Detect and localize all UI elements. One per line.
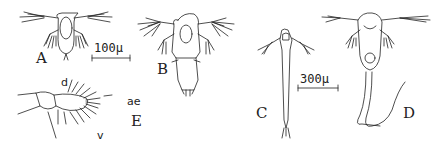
panel-label-b: B: [157, 62, 168, 77]
annotation-ae: ae: [127, 96, 141, 107]
specimen-b-drawing: [138, 14, 234, 96]
figure: A 100μ B C 300μ D E d ae v: [0, 0, 448, 148]
panel-label-a: A: [36, 51, 47, 66]
panel-label-c: C: [256, 106, 267, 121]
annotation-d: d: [61, 77, 68, 88]
scale-bar-100: [92, 55, 130, 61]
panel-label-e: E: [131, 114, 142, 129]
annotation-v: v: [97, 130, 104, 141]
scale-bar-300-label: 300μ: [300, 73, 329, 85]
scale-bar-100-label: 100μ: [94, 42, 123, 54]
panel-label-d: D: [403, 106, 415, 121]
